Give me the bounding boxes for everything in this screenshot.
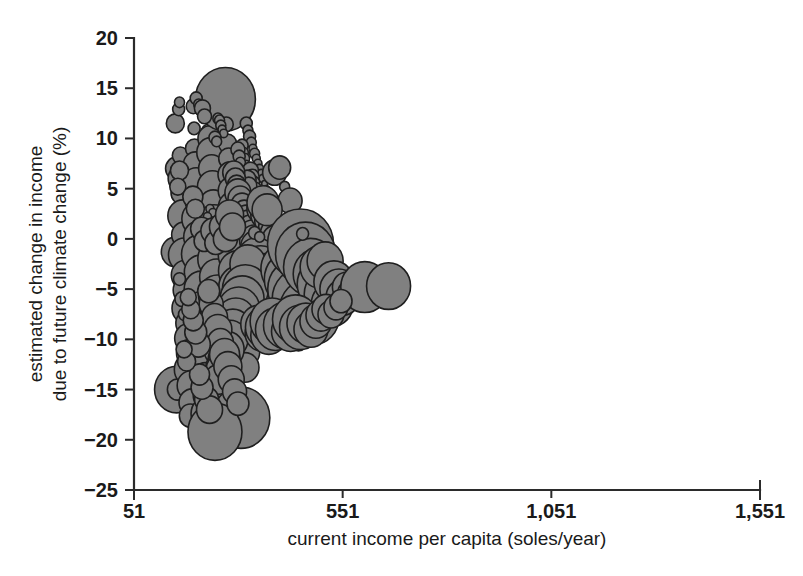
y-tick-label: −25 [84,479,118,501]
bubble-point [219,213,245,241]
x-tick-label: 551 [326,500,359,522]
y-tick-label: −15 [84,379,118,401]
bubble-point [330,290,352,313]
bubble-point [166,114,184,133]
bubble-point [176,341,192,358]
y-axis-title-line1: estimated change in income [25,146,46,383]
x-axis-title: current income per capita (soles/year) [288,528,607,549]
bubble-point [198,109,212,124]
bubble-point [173,273,185,286]
x-tick-label: 51 [123,500,145,522]
y-tick-label: −20 [84,429,118,451]
bubble-point [297,228,309,241]
y-axis-title-line2: due to future climate change (%) [49,127,70,402]
y-tick-label: 5 [107,178,118,200]
y-tick-label: −5 [95,278,118,300]
chart-figure: 20151050−5−10−15−20−25 515511,0511,551 c… [0,0,803,576]
bubble-point [197,396,223,424]
bubble-point [212,136,222,147]
bubble-point [170,161,188,180]
bubble-point [186,199,204,218]
y-tick-label: 10 [96,127,118,149]
bubble-point [269,156,291,179]
x-tick-label: 1,551 [735,500,785,522]
bubble-point [174,97,184,108]
bubble-point [367,263,411,310]
x-tick-label: 1,051 [526,500,576,522]
y-tick-label: 0 [107,228,118,250]
bubble-point [180,289,196,306]
y-tick-label: 15 [96,77,118,99]
bubble-chart-canvas: 20151050−5−10−15−20−25 515511,0511,551 c… [0,0,803,576]
y-tick-label: 20 [96,27,118,49]
bubble-point [227,392,249,415]
bubble-point [198,279,220,302]
y-tick-label: −10 [84,328,118,350]
bubble-point [255,232,265,243]
